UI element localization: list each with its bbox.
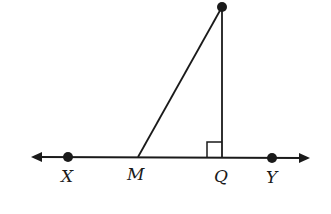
label-x: X <box>59 166 74 186</box>
right-arrow-icon <box>299 153 310 163</box>
point-y <box>267 153 277 163</box>
left-arrow-icon <box>31 152 42 162</box>
geometry-diagram: X M Q Y <box>0 0 331 214</box>
segment-top-m <box>138 7 222 157</box>
point-x <box>63 152 73 162</box>
line-xy <box>38 157 303 158</box>
label-m: M <box>126 164 145 184</box>
label-q: Q <box>214 166 228 186</box>
right-angle-marker <box>207 142 222 157</box>
label-y: Y <box>266 167 279 187</box>
